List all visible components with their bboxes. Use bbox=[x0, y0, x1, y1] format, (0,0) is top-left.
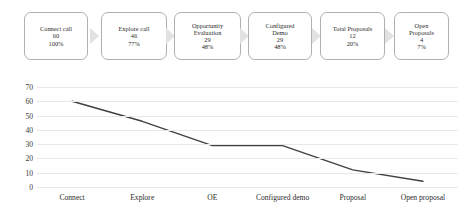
y-axis-tick-label: 40 bbox=[5, 125, 33, 134]
x-axis-tick-label: Configured demo bbox=[256, 193, 309, 202]
x-axis-tick-label: Connect bbox=[59, 193, 84, 202]
y-axis-tick-label: 50 bbox=[5, 111, 33, 120]
funnel-stage[interactable]: Open Proposals47% bbox=[394, 12, 449, 60]
funnel-line-chart: 010203040506070 ConnectExploreOEConfigur… bbox=[0, 72, 471, 223]
y-axis: 010203040506070 bbox=[0, 87, 33, 187]
funnel-stage-percent: 7% bbox=[417, 43, 426, 50]
gridline bbox=[37, 130, 458, 131]
gridline bbox=[37, 87, 458, 88]
funnel-stage-count: 29 bbox=[204, 36, 210, 43]
y-axis-tick-label: 60 bbox=[5, 97, 33, 106]
funnel-stage-count: 46 bbox=[131, 32, 137, 39]
gridline bbox=[37, 173, 458, 174]
funnel-stage-row: Connect call60100%Explore call4677%Oppor… bbox=[0, 0, 471, 72]
y-axis-tick-label: 20 bbox=[5, 154, 33, 163]
y-axis-tick-label: 0 bbox=[5, 183, 33, 192]
funnel-stage[interactable]: Opportunity Evaluation2948% bbox=[174, 12, 241, 60]
y-axis-tick-label: 30 bbox=[5, 140, 33, 149]
funnel-stage-count: 29 bbox=[277, 36, 283, 43]
x-axis-tick-label: OE bbox=[207, 193, 217, 202]
y-axis-tick-label: 10 bbox=[5, 168, 33, 177]
x-axis-tick-label: Proposal bbox=[339, 193, 366, 202]
funnel-stage[interactable]: Configured Demo2948% bbox=[248, 12, 312, 60]
funnel-stage-label: Open Proposals bbox=[407, 22, 436, 36]
funnel-stage-percent: 48% bbox=[202, 43, 214, 50]
funnel-stage-count: 60 bbox=[53, 32, 59, 39]
funnel-stage-label: Total Proposals bbox=[331, 25, 375, 32]
x-axis: ConnectExploreOEConfigured demoProposalO… bbox=[37, 193, 458, 213]
series-polyline bbox=[72, 101, 423, 181]
funnel-stage-percent: 100% bbox=[49, 40, 64, 47]
gridline bbox=[37, 144, 458, 145]
funnel-stage-label: Configured Demo bbox=[263, 22, 296, 36]
funnel-stage-label: Explore call bbox=[116, 25, 151, 32]
funnel-stage[interactable]: Explore call4677% bbox=[101, 12, 167, 60]
funnel-arrow-icon bbox=[385, 28, 394, 44]
funnel-stage[interactable]: Total Proposals1220% bbox=[320, 12, 385, 60]
gridline bbox=[37, 101, 458, 102]
y-axis-tick-label: 70 bbox=[5, 83, 33, 92]
funnel-stage-label: Connect call bbox=[38, 25, 74, 32]
funnel-stage-label: Opportunity Evaluation bbox=[190, 22, 225, 36]
gridline bbox=[37, 116, 458, 117]
gridline bbox=[37, 187, 458, 188]
funnel-stage[interactable]: Connect call60100% bbox=[24, 12, 88, 60]
x-axis-tick-label: Explore bbox=[130, 193, 154, 202]
funnel-stage-count: 12 bbox=[349, 32, 355, 39]
funnel-stage-percent: 48% bbox=[274, 43, 286, 50]
funnel-arrow-icon bbox=[90, 28, 99, 44]
funnel-stage-count: 4 bbox=[420, 36, 423, 43]
x-axis-tick-label: Open proposal bbox=[401, 193, 446, 202]
funnel-stage-percent: 77% bbox=[128, 40, 140, 47]
gridline bbox=[37, 158, 458, 159]
funnel-stage-percent: 20% bbox=[347, 40, 359, 47]
plot-area bbox=[37, 87, 458, 187]
